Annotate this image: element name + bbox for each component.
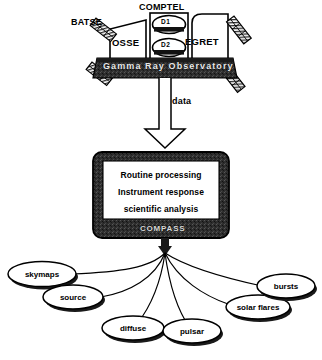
output-label-solar-flares: solar flares (226, 303, 290, 312)
processing-task-routine: Routine processing (104, 170, 218, 180)
detector-label-d1: D1 (161, 18, 171, 25)
processing-task-scientific-analysis: scientific analysis (104, 204, 218, 214)
detector-label-d2: D2 (161, 41, 171, 48)
instrument-label-osse: OSSE (112, 37, 139, 48)
instrument-label-batse: BATSE (71, 17, 102, 27)
spacecraft-bus-label: Gamma Ray Observatory (103, 61, 234, 71)
diagram-canvas: BATSE OSSE COMPTEL EGRET D1 D2 Gamma Ray… (0, 0, 322, 360)
data-arrow-label: data (172, 96, 191, 106)
data-flow-arrow (145, 78, 185, 148)
output-label-pulsar: pulsar (164, 327, 220, 336)
compass-system-label: COMPASS (140, 224, 185, 233)
instrument-label-comptel: COMPTEL (139, 2, 184, 12)
output-label-skymaps: skymaps (12, 270, 72, 279)
instrument-label-egret: EGRET (185, 36, 219, 47)
output-label-source: source (45, 293, 101, 302)
solar-panel-upper-right (227, 16, 252, 44)
output-label-bursts: bursts (258, 282, 314, 291)
output-label-diffuse: diffuse (105, 324, 161, 333)
output-connector-lines (72, 253, 262, 328)
processing-task-instrument-response: Instrument response (104, 187, 218, 197)
